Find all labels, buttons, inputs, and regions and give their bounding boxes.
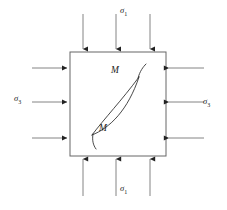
right-arrow-group [169,68,204,138]
sigma-3-right-subscript: 3 [207,102,210,108]
top-arrow-group [83,14,150,49]
sigma-1-top-label: σ1 [120,6,127,17]
crack-label-m-upper: M [111,66,119,76]
sigma-1-bottom-label: σ1 [120,184,127,195]
crack-label-m-lower: M [99,124,107,134]
figure-container: σ1 σ1 σ3 σ3 M M [0,0,227,210]
sigma-1-bottom-subscript: 1 [124,189,127,195]
stress-element-diagram [0,0,227,210]
sigma-3-left-subscript: 3 [18,99,21,105]
sigma-1-top-subscript: 1 [124,11,127,17]
sigma-3-right-label: σ3 [203,97,210,108]
left-arrow-group [32,68,67,138]
bottom-arrow-group [83,159,150,196]
sigma-3-left-label: σ3 [14,94,21,105]
